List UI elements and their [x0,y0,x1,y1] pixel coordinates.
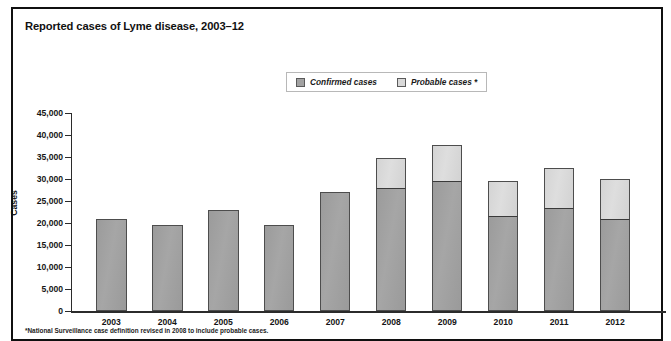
chart-frame: Reported cases of Lyme disease, 2003–12 … [11,7,663,341]
y-axis-tick-label: 5,000 [19,284,63,294]
x-axis-tick-label: 2011 [537,317,581,327]
bar-segment-probable[interactable] [488,181,519,216]
bar-segment-probable[interactable] [600,179,631,219]
x-axis-tick-label: 2006 [257,317,301,327]
y-axis-tick-label: 20,000 [19,218,63,228]
bar-segment-confirmed[interactable] [152,225,183,311]
legend-label-probable: Probable cases * [411,77,477,87]
square-swatch-icon [296,78,305,87]
y-axis-tick [65,267,71,268]
bar-segment-probable[interactable] [376,158,407,187]
bar-segment-confirmed[interactable] [432,181,463,311]
x-axis-tick-label: 2003 [89,317,133,327]
x-axis-tick-label: 2007 [313,317,357,327]
bar-segment-confirmed[interactable] [264,225,295,311]
x-axis-tick-label: 2005 [201,317,245,327]
bar-segment-probable[interactable] [432,145,463,181]
y-axis-tick-label: 40,000 [19,130,63,140]
bar-segment-confirmed[interactable] [376,188,407,311]
y-axis-tick [65,113,71,114]
y-axis-tick-label: 25,000 [19,196,63,206]
x-axis-tick-label: 2010 [481,317,525,327]
y-axis-tick [65,157,71,158]
bar-group[interactable] [96,219,127,311]
y-axis-tick-label: 0 [19,306,63,316]
bar-group[interactable] [264,225,295,311]
bar-group[interactable] [208,210,239,311]
y-axis-tick [65,201,71,202]
y-axis-tick [65,223,71,224]
y-axis-tick [65,289,71,290]
y-axis-tick-label: 35,000 [19,152,63,162]
bar-group[interactable] [600,179,631,311]
square-swatch-icon [397,78,406,87]
bar-segment-confirmed[interactable] [208,210,239,311]
y-axis-title: Cases [9,190,19,216]
bar-segment-confirmed[interactable] [544,208,575,311]
y-axis-line [71,113,72,311]
y-axis-tick [65,135,71,136]
chart-title: Reported cases of Lyme disease, 2003–12 [25,20,244,32]
bar-segment-confirmed[interactable] [320,192,351,311]
bar-group[interactable] [432,145,463,311]
x-axis-tick-label: 2004 [145,317,189,327]
bar-group[interactable] [488,181,519,311]
bar-segment-probable[interactable] [544,168,575,208]
x-axis-tick-label: 2009 [425,317,469,327]
y-axis-tick-label: 10,000 [19,262,63,272]
bar-segment-confirmed[interactable] [600,219,631,311]
bar-group[interactable] [320,192,351,311]
y-axis-tick [65,245,71,246]
bar-group[interactable] [544,168,575,311]
y-axis-tick [65,179,71,180]
bar-group[interactable] [376,158,407,311]
y-axis-tick [65,311,71,312]
chart-footnote: *National Surveillance case definition r… [25,327,268,334]
x-axis-tick-label: 2012 [593,317,637,327]
legend-item-probable: Probable cases * [397,77,477,87]
x-axis-tick-label: 2008 [369,317,413,327]
bar-group[interactable] [152,225,183,311]
legend-item-confirmed: Confirmed cases [296,77,377,87]
chart-legend: Confirmed cases Probable cases * [286,72,487,92]
plot-area: Cases 45,00040,00035,00030,00025,00020,0… [71,113,656,311]
legend-label-confirmed: Confirmed cases [310,77,377,87]
y-axis-tick-label: 45,000 [19,108,63,118]
bar-segment-confirmed[interactable] [488,216,519,311]
y-axis-tick-label: 30,000 [19,174,63,184]
bar-segment-confirmed[interactable] [96,219,127,311]
y-axis-tick-label: 15,000 [19,240,63,250]
x-axis-line [71,311,666,313]
